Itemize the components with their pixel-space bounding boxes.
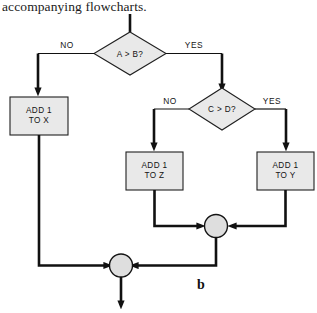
- figure-part-label: b: [197, 277, 205, 293]
- process-y-line-1: ADD 1: [273, 161, 299, 170]
- decision-2-label: C > D?: [208, 105, 236, 114]
- decision-1-yes-label: YES: [185, 40, 203, 50]
- decision-2-yes-label: YES: [263, 96, 281, 106]
- decision-2-no-label: NO: [163, 96, 177, 106]
- process-z-line-1: ADD 1: [142, 161, 168, 170]
- edge-add-y-to-connector-1: [232, 190, 286, 226]
- decision-1-no-label: NO: [60, 40, 74, 50]
- merge-connector-lower: [110, 254, 133, 277]
- edge-connector-1-to-connector-2: [134, 238, 216, 266]
- edge-add-z-to-connector-1: [155, 190, 202, 226]
- process-y-line-2: TO Y: [275, 171, 295, 180]
- flowchart-diagram: A > B? NO YES ADD 1 TO X C > D? NO YES A…: [0, 0, 317, 313]
- decision-1-label: A > B?: [117, 50, 144, 59]
- merge-connector-upper: [205, 215, 228, 238]
- edge-add-x-to-connector-2: [39, 135, 108, 266]
- process-x-line-1: ADD 1: [26, 106, 52, 115]
- flowchart-figure-page: accompanying flowcharts. A > B? NO YES A…: [0, 0, 317, 313]
- process-z-line-2: TO Z: [145, 171, 165, 180]
- process-x-line-2: TO X: [29, 116, 50, 125]
